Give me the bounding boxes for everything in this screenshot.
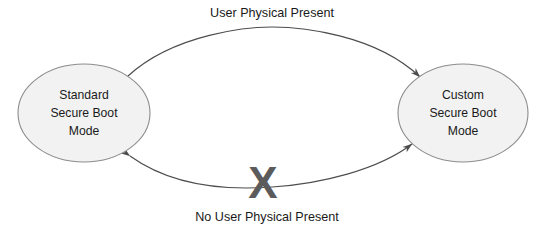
diagram-canvas: User Physical Present No User Physical P…	[0, 0, 538, 237]
edge-label-no-user-physical-present: No User Physical Present	[195, 210, 339, 224]
edge-user-physical-present: User Physical Present	[128, 6, 420, 77]
blocked-transition-x-mark: X	[248, 158, 277, 207]
custom-mode-label-line-3: Mode	[448, 124, 479, 138]
standard-mode-label-line-1: Standard	[59, 88, 108, 102]
state-transition-diagram: User Physical Present No User Physical P…	[0, 0, 538, 237]
standard-mode-label-line-3: Mode	[69, 124, 100, 138]
edge-line-top	[128, 27, 420, 77]
edge-label-user-physical-present: User Physical Present	[210, 6, 334, 20]
node-standard-secure-boot-mode[interactable]: Standard Secure Boot Mode	[18, 64, 150, 162]
custom-mode-label-line-2: Secure Boot	[429, 106, 497, 120]
custom-mode-label-line-1: Custom	[442, 88, 484, 102]
standard-mode-label-line-2: Secure Boot	[50, 106, 118, 120]
node-custom-secure-boot-mode[interactable]: Custom Secure Boot Mode	[398, 64, 528, 162]
